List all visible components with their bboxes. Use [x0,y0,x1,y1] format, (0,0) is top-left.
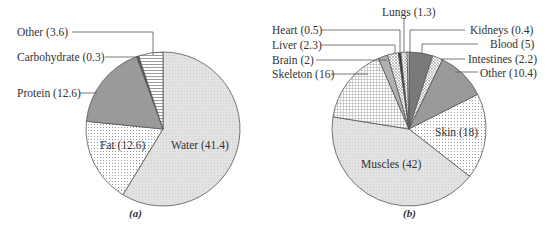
label-a-fat: Fat (12.6) [100,139,146,152]
pie-chart-body-composition [86,52,240,206]
label-b-muscles: Muscles (42) [361,158,422,171]
label-a-other: Other (3.6) [17,26,68,39]
label-a-water: Water (41.4) [171,139,229,152]
pie-charts-figure: Other (3.6) Carbohydrate (0.3) Protein (… [0,0,549,234]
caption-a: (a) [129,207,142,220]
label-b-brain: Brain (2) [272,54,314,67]
label-b-liver: Liver (2.3) [272,39,322,52]
label-b-skin: Skin (18) [435,126,478,139]
label-b-intestines: Intestines (2.2) [468,53,537,66]
label-b-kidneys: Kidneys (0.4) [470,24,533,37]
label-b-heart: Heart (0.5) [272,24,323,37]
label-b-skeleton: Skeleton (16) [272,68,334,81]
label-a-carbohydrate: Carbohydrate (0.3) [17,51,105,64]
label-b-other: Other (10.4) [480,67,537,80]
label-b-blood: Blood (5) [490,38,535,51]
caption-b: (b) [403,207,416,220]
label-a-protein: Protein (12.6) [17,87,81,100]
label-b-lungs: Lungs (1.3) [382,6,436,19]
